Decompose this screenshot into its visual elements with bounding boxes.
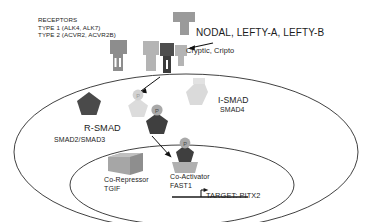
ismad-sublabel: SMAD4: [220, 106, 245, 114]
receptor-complex: [143, 41, 187, 73]
coactivator-complex: P: [172, 138, 198, 173]
svg-text:P: P: [183, 141, 187, 147]
pathway-diagram: P P P: [0, 0, 367, 222]
arrow-rsmad-to-nucleus: [152, 136, 172, 158]
ismad-shield: [186, 78, 208, 105]
rsmad-phosphorylated-faded: P: [128, 90, 148, 117]
corepressor-label: Co-Repressor: [104, 176, 149, 184]
rsmad-activated: P: [146, 104, 168, 134]
ismad-label: I-SMAD: [218, 95, 249, 105]
receptors-title: RECEPTORS: [38, 16, 77, 23]
receptor-type2-unbound: [110, 40, 127, 71]
corepressor-sublabel: TGIF: [104, 185, 120, 193]
coactivator-label: Co-Activator: [170, 173, 210, 181]
coreceptor-label: Cryptic, Cripto: [186, 47, 234, 56]
target-gene-label: TARGET: PITX2: [206, 192, 261, 201]
receptors-type2-label: TYPE 2 (ACVR2, ACVR2B): [38, 31, 116, 38]
receptors-type1-label: TYPE 1 (ALK4, ALK7): [38, 24, 100, 31]
ligand-nodal-glyph: [173, 12, 195, 35]
rsmad-pentagon: [77, 92, 101, 115]
rsmad-sublabel: SMAD2/SMAD3: [54, 136, 105, 144]
arrow-receptor-to-rsmad: [139, 77, 160, 93]
ligands-label: NODAL, LEFTY-A, LEFTY-B: [196, 27, 324, 39]
corepressor-box: [108, 153, 143, 175]
coactivator-sublabel: FAST1: [170, 182, 192, 190]
svg-text:P: P: [155, 108, 159, 114]
rsmad-label: R-SMAD: [84, 123, 121, 134]
svg-text:P: P: [136, 93, 140, 99]
